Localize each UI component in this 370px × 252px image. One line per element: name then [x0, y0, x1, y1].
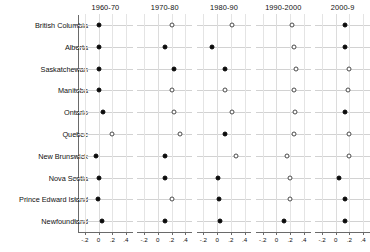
data-point	[162, 175, 167, 180]
panel-title-2000-9: 2000-9	[315, 3, 370, 12]
panel-title-1960-70: 1960-70	[78, 3, 133, 12]
vertical-gridline	[363, 14, 364, 232]
panel-1990-2000: -.20.2.4	[256, 14, 311, 232]
x-axis-tick	[276, 232, 277, 235]
panel-2000-9: -.20.2.4	[315, 14, 370, 232]
data-point	[281, 219, 286, 224]
data-point	[95, 197, 100, 202]
data-point	[162, 44, 167, 49]
x-axis-tick-label: 0	[156, 236, 159, 243]
horizontal-gridline	[78, 134, 133, 135]
horizontal-gridline	[315, 69, 370, 70]
data-point	[233, 153, 238, 158]
x-axis-tick-label: 0	[215, 236, 218, 243]
horizontal-gridline	[197, 25, 252, 26]
horizontal-gridline	[137, 69, 192, 70]
data-point	[293, 66, 298, 71]
data-point	[288, 197, 293, 202]
panel-title-1970-80: 1970-80	[137, 3, 192, 12]
x-axis-tick	[336, 232, 337, 235]
data-point	[288, 175, 293, 180]
horizontal-gridline	[256, 90, 311, 91]
x-axis-tick-label: 0	[97, 236, 100, 243]
horizontal-gridline	[78, 47, 133, 48]
horizontal-gridline	[78, 156, 133, 157]
vertical-gridline	[245, 14, 246, 232]
data-point	[229, 110, 234, 115]
x-axis-tick	[185, 232, 186, 235]
vertical-gridline	[322, 14, 323, 232]
horizontal-gridline	[197, 199, 252, 200]
horizontal-gridline	[137, 90, 192, 91]
vertical-gridline	[304, 14, 305, 232]
dot-plot-chart: British ColumbiaAlbertaSaskatchewanManit…	[0, 0, 370, 252]
vertical-gridline	[336, 14, 337, 232]
x-axis-tick-label: .4	[301, 236, 306, 243]
horizontal-gridline	[315, 134, 370, 135]
panel-1980-90: -.20.2.4	[197, 14, 252, 232]
x-axis-tick-label: .2	[110, 236, 115, 243]
horizontal-gridline	[137, 199, 192, 200]
x-axis-tick-label: -.2	[200, 236, 207, 243]
x-axis-tick	[85, 232, 86, 235]
data-point	[290, 22, 295, 27]
vertical-gridline	[144, 14, 145, 232]
x-axis-tick-label: -.2	[259, 236, 266, 243]
panel-title-1980-90: 1980-90	[197, 3, 252, 12]
data-point	[346, 66, 351, 71]
horizontal-gridline	[256, 25, 311, 26]
vertical-gridline	[231, 14, 232, 232]
horizontal-gridline	[315, 90, 370, 91]
data-point	[347, 131, 352, 136]
horizontal-gridline	[197, 156, 252, 157]
x-axis-line	[78, 232, 133, 233]
horizontal-gridline	[78, 178, 133, 179]
x-axis-tick	[322, 232, 323, 235]
data-point	[292, 110, 297, 115]
data-point	[223, 131, 228, 136]
x-axis-tick	[203, 232, 204, 235]
vertical-gridline	[126, 14, 127, 232]
panel-1960-70: -.20.2.4	[78, 14, 133, 232]
horizontal-gridline	[197, 178, 252, 179]
data-point	[229, 22, 234, 27]
data-point	[96, 88, 101, 93]
data-point	[217, 197, 222, 202]
data-point	[169, 88, 174, 93]
horizontal-gridline	[256, 178, 311, 179]
x-axis-tick	[99, 232, 100, 235]
x-axis-tick-label: .4	[123, 236, 128, 243]
horizontal-gridline	[197, 47, 252, 48]
data-point	[337, 175, 342, 180]
horizontal-gridline	[78, 90, 133, 91]
data-point	[177, 131, 182, 136]
data-point	[222, 88, 227, 93]
x-axis-tick-label: 0	[334, 236, 337, 243]
vertical-gridline	[158, 14, 159, 232]
horizontal-gridline	[78, 199, 133, 200]
x-axis-tick-label: .4	[361, 236, 366, 243]
data-point	[99, 219, 104, 224]
data-point	[162, 153, 167, 158]
data-point	[94, 153, 99, 158]
horizontal-gridline	[137, 25, 192, 26]
x-axis-tick-label: .2	[228, 236, 233, 243]
data-point	[96, 22, 101, 27]
x-axis-tick	[217, 232, 218, 235]
horizontal-gridline	[256, 47, 311, 48]
x-axis-tick	[144, 232, 145, 235]
horizontal-gridline	[197, 112, 252, 113]
x-axis-tick	[112, 232, 113, 235]
x-axis-tick-label: .4	[183, 236, 188, 243]
data-point	[171, 66, 176, 71]
horizontal-gridline	[256, 199, 311, 200]
data-point	[342, 197, 347, 202]
data-point	[342, 219, 347, 224]
data-point	[342, 110, 347, 115]
vertical-gridline	[112, 14, 113, 232]
data-point	[291, 131, 296, 136]
horizontal-gridline	[256, 69, 311, 70]
vertical-gridline	[203, 14, 204, 232]
horizontal-gridline	[137, 112, 192, 113]
x-axis-line	[137, 232, 192, 233]
